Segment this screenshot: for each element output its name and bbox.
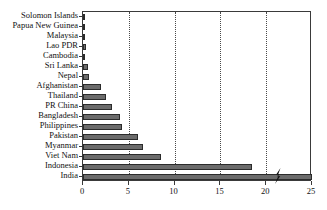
bar-row <box>83 82 312 92</box>
category-label: Pakistan <box>49 131 78 140</box>
category-label: India <box>61 171 78 180</box>
category-label: Malaysia <box>47 31 78 40</box>
category-label: Solomon Islands <box>21 11 78 20</box>
category-tick <box>79 46 82 47</box>
bar-row <box>83 142 312 152</box>
category-label: Afghanistan <box>36 81 78 90</box>
category-label: Sri Lanka <box>45 61 78 70</box>
bar-row <box>83 102 312 112</box>
category-tick <box>79 16 82 17</box>
bar-row <box>83 122 312 132</box>
x-axis-tick-label: 5 <box>126 186 130 196</box>
category-axis-labels: Solomon IslandsPapua New GuineaMalaysiaL… <box>0 11 80 181</box>
x-axis-tick-label: 20 <box>261 186 270 196</box>
x-axis-tick <box>174 181 175 185</box>
bars-layer <box>83 12 310 180</box>
bar-row <box>83 32 312 42</box>
bar-row <box>83 12 312 22</box>
category-tick <box>79 56 82 57</box>
bar-row <box>83 72 312 82</box>
category-label: Lao PDR <box>46 41 78 50</box>
bar-chart: Solomon IslandsPapua New GuineaMalaysiaL… <box>0 0 327 210</box>
x-axis-tick-label: 25 <box>307 186 316 196</box>
category-label: Viet Nam <box>45 151 78 160</box>
x-axis-tick-label: 0 <box>80 186 84 196</box>
bar-row <box>83 132 312 142</box>
plot-area <box>82 11 311 181</box>
x-axis-tick <box>311 181 312 185</box>
bar <box>83 14 85 20</box>
bar-row <box>83 62 312 72</box>
bar <box>83 104 112 110</box>
x-axis-tick <box>82 181 83 185</box>
bar <box>83 144 143 150</box>
bar-row <box>83 42 312 52</box>
x-axis-tick-label: 10 <box>169 186 178 196</box>
category-label: Papua New Guinea <box>12 21 78 30</box>
category-tick <box>79 76 82 77</box>
category-tick <box>79 156 82 157</box>
category-tick <box>79 116 82 117</box>
x-axis-tick <box>219 181 220 185</box>
category-tick <box>79 106 82 107</box>
bar <box>83 54 85 60</box>
bar <box>83 74 89 80</box>
category-tick <box>79 166 82 167</box>
bar-row <box>83 52 312 62</box>
bar <box>83 124 122 130</box>
category-label: Cambodia <box>43 51 78 60</box>
bar <box>83 84 101 90</box>
category-label: Thailand <box>48 91 78 100</box>
category-label: Indonesia <box>45 161 78 170</box>
category-tick <box>79 26 82 27</box>
bar-row <box>83 152 312 162</box>
category-tick <box>79 136 82 137</box>
bar <box>83 24 85 30</box>
x-axis-tick <box>265 181 266 185</box>
axis-break-icon <box>273 168 285 184</box>
bar <box>83 164 252 170</box>
bar-row <box>83 112 312 122</box>
bar <box>83 64 88 70</box>
bar <box>83 44 86 50</box>
category-label: Philippines <box>40 121 78 130</box>
bar <box>83 34 85 40</box>
category-tick <box>79 146 82 147</box>
x-axis-tick <box>128 181 129 185</box>
bar <box>83 154 161 160</box>
category-tick <box>79 36 82 37</box>
category-tick <box>79 126 82 127</box>
bar <box>83 94 106 100</box>
category-label: PR China <box>45 101 78 110</box>
category-label: Myanmar <box>45 141 78 150</box>
bar-row <box>83 22 312 32</box>
bar <box>83 114 120 120</box>
x-axis-tick-label: 15 <box>215 186 224 196</box>
category-tick <box>79 176 82 177</box>
category-label: Nepal <box>58 71 78 80</box>
category-tick <box>79 86 82 87</box>
category-tick <box>79 96 82 97</box>
bar <box>83 134 138 140</box>
category-label: Bangladesh <box>38 111 78 120</box>
bar-row <box>83 92 312 102</box>
category-tick <box>79 66 82 67</box>
